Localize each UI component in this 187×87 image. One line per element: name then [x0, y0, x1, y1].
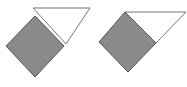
diagram-canvas: [0, 0, 187, 87]
geometry-diagram: [0, 0, 187, 87]
figure-right: [99, 12, 186, 72]
figure-left: [6, 8, 90, 77]
